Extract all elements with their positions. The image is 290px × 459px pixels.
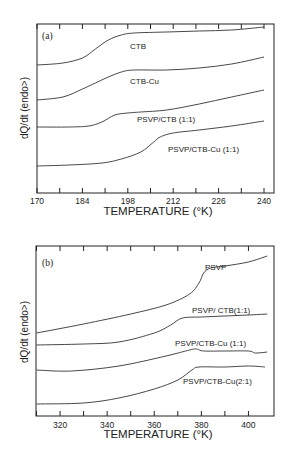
x-tick-label: 400 xyxy=(241,420,255,430)
x-tick-label: 240 xyxy=(257,196,271,206)
panel-b: (b) PSVP PSVP/ CTB(1:1) PSVP/CTB-Cu (1:1… xyxy=(19,246,274,440)
series-label-psvp-ctb-cu: PSVP/CTB-Cu (1:1) xyxy=(168,145,239,154)
panel-a-y-axis-label: dQ/dt (endo>) xyxy=(19,77,30,139)
panel-a-frame xyxy=(37,24,274,193)
panel-a-x-axis-label: TEMPERATURE (°K) xyxy=(103,205,212,217)
series-label-ctb-cu: CTB-Cu xyxy=(130,77,159,86)
panel-b-x-axis-label: TEMPERATURE (°K) xyxy=(103,428,212,440)
series-label-psvp-ctb-cu-2-1: PSVP/CTB-Cu(2:1) xyxy=(183,377,252,386)
series-curve xyxy=(37,349,268,371)
panel-a-label: (a) xyxy=(42,31,53,42)
series-label-psvp-ctb: PSVP/ CTB(1:1) xyxy=(192,306,251,315)
panel-b-label: (b) xyxy=(42,258,53,269)
panel-b-y-axis-label: dQ/dt (endo>) xyxy=(19,301,30,363)
series-label-psvp-ctb-cu-1-1: PSVP/CTB-Cu (1:1) xyxy=(175,339,246,348)
series-curve xyxy=(37,27,264,65)
dsc-figure: (a) CTB CTB-Cu PSVP/CTB (1:1) PSVP/CTB-C… xyxy=(0,0,290,459)
x-tick-label: 226 xyxy=(212,196,226,206)
x-tick-label: 184 xyxy=(75,196,89,206)
panel-b-frame xyxy=(36,246,274,416)
x-tick-label: 320 xyxy=(53,420,67,430)
x-tick-label: 170 xyxy=(30,196,44,206)
panel-a: (a) CTB CTB-Cu PSVP/CTB (1:1) PSVP/CTB-C… xyxy=(19,24,274,217)
series-label-psvp: PSVP xyxy=(205,263,226,272)
series-label-psvp-ctb: PSVP/CTB (1:1) xyxy=(137,115,196,124)
panel-a-ticks xyxy=(37,24,264,193)
series-label-ctb: CTB xyxy=(130,42,146,51)
series-curve xyxy=(37,256,268,333)
series-curve xyxy=(37,121,264,166)
